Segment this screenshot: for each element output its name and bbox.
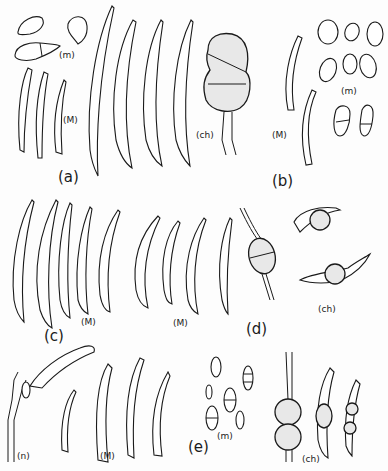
label-d-chlamydospores: (ch) — [318, 304, 336, 314]
label-panel-e: (e) — [188, 438, 209, 456]
label-panel-a: (a) — [58, 168, 79, 186]
panel-a-small-macroconidia — [19, 68, 66, 158]
panel-e-chlamydospores — [275, 352, 360, 462]
drawing-layer — [0, 0, 388, 471]
label-panel-c: (c) — [44, 327, 64, 345]
panel-a-microconidia — [15, 17, 87, 61]
panel-e-macroconidia — [62, 358, 170, 462]
label-b-macroconidia: (M) — [272, 130, 287, 140]
label-e-conidiophore: (n) — [17, 451, 30, 461]
panel-e-microconidia — [206, 357, 253, 430]
label-panel-d: (d) — [246, 320, 267, 338]
label-a-chlamydospore: (ch) — [196, 130, 214, 140]
panel-d-chlamydospores — [240, 208, 370, 300]
label-c-macroconidia: (M) — [81, 317, 96, 327]
label-d-macroconidia: (M) — [173, 318, 188, 328]
label-e-macroconidia: (M) — [100, 451, 115, 461]
label-panel-b: (b) — [272, 172, 293, 190]
panel-e-conidiophore — [8, 346, 94, 462]
panel-b-microconidia — [316, 20, 383, 136]
panel-c-macroconidia — [13, 200, 120, 328]
panel-a-large-macroconidia — [89, 6, 193, 176]
label-e-microconidia: (m) — [217, 431, 233, 441]
spore-illustration-plate: (m) (M) (ch) (a) (M) (m) (b) (M) (c) (M)… — [0, 0, 388, 471]
label-a-macroconidia: (M) — [63, 115, 78, 125]
panel-d-macroconidia — [135, 216, 232, 314]
label-e-chlamydospores: (ch) — [302, 454, 320, 464]
label-a-microconidia: (m) — [59, 50, 75, 60]
panel-b-macroconidia — [286, 36, 316, 165]
label-b-microconidia: (m) — [341, 86, 357, 96]
